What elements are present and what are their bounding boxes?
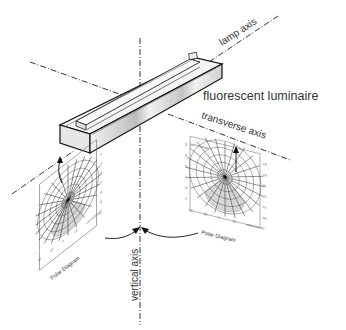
polar-header-right: gamma angle	[190, 142, 210, 150]
polar-tick-bottom: 0	[218, 215, 220, 219]
polar-tick-bottom: 15	[203, 212, 207, 217]
polar-tick-right: 75	[263, 194, 267, 199]
arrow-to-vertical-right	[143, 229, 198, 237]
lamp-axis-line-lower	[12, 150, 75, 194]
polar-tick-right: 60	[100, 189, 103, 195]
polar-spoke	[187, 157, 225, 177]
transverse-axis-label: transverse axis	[200, 109, 267, 140]
polar-tick-left: 30	[33, 251, 36, 257]
polar-tick-right: 120	[100, 149, 105, 157]
polar-tick-left: 45	[184, 185, 188, 190]
polar-tick-left: 75	[33, 222, 36, 228]
polar-tick-left: 105	[31, 203, 36, 211]
polar-tick-left: 90	[184, 153, 188, 158]
polar-tick-right: 90	[100, 170, 103, 176]
polar-tick-bottom: 0	[62, 239, 64, 244]
polar-caption-left: Polar Diagram	[49, 255, 81, 281]
polar-tick-left: 30	[184, 196, 188, 201]
polar-tick-bottom: 15	[74, 228, 77, 234]
polar-spoke	[68, 166, 100, 200]
polar-tick-right: 75	[100, 179, 103, 185]
polar-tick-bottom: 30	[189, 208, 193, 213]
polar-tick-bottom: 30	[98, 209, 101, 215]
polar-tick-right: 45	[100, 198, 103, 204]
arrow-to-vertical-left	[105, 229, 138, 239]
polar-spoke	[205, 138, 225, 177]
luminaire-diagram: lamp axis fluorescent luminaire transver…	[0, 0, 346, 330]
vertical-axis-label: vertical axis	[129, 249, 140, 301]
polar-tick-left: 105	[182, 142, 188, 147]
polar-tick-right: 90	[263, 183, 267, 188]
polar-tick-right: 120	[263, 162, 269, 167]
polar-tick-bottom: 30	[261, 226, 265, 231]
polar-tick-left: 60	[184, 175, 188, 180]
polar-caption-right: Polar Diagram	[201, 229, 237, 243]
fluorescent-luminaire	[60, 52, 222, 153]
polar-tick-right: 60	[263, 205, 267, 210]
polar-tick-left: 75	[184, 164, 188, 169]
arrowhead-to-vertical-right	[141, 227, 149, 234]
polar-tick-right: 105	[100, 159, 105, 167]
polar-tick-left: 45	[33, 241, 36, 247]
lamp-cap	[189, 52, 198, 59]
polar-tick-left: 60	[33, 232, 36, 238]
polar-tick-bottom: 15	[50, 247, 53, 253]
polar-tick-right: 45	[263, 216, 267, 221]
polar-tick-right: 105	[263, 173, 269, 178]
luminaire-label: fluorescent luminaire	[203, 89, 318, 103]
polar-tick-bottom: cd/1000lm	[247, 223, 262, 231]
polar-tick-bottom: 15	[232, 219, 236, 224]
polar-tick-left: 90	[33, 213, 36, 219]
